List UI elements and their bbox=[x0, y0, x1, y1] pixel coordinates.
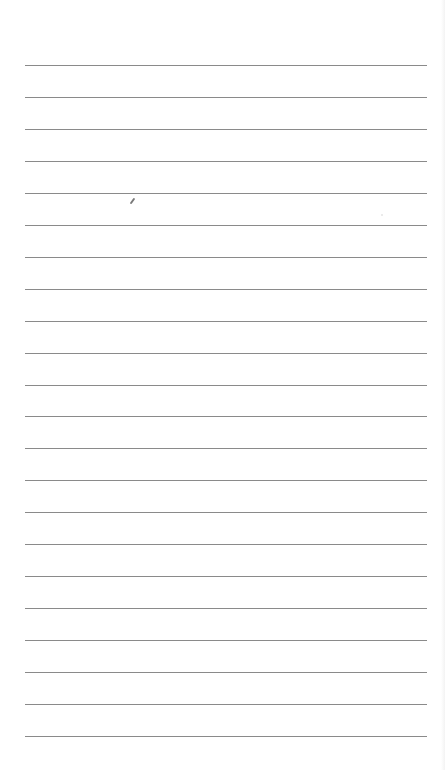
ruled-line bbox=[25, 448, 427, 449]
ruled-line bbox=[25, 416, 427, 417]
ruled-line bbox=[25, 608, 427, 609]
notepad-page[interactable] bbox=[0, 0, 445, 770]
ruled-line bbox=[25, 736, 427, 737]
ruled-line bbox=[25, 257, 427, 258]
ruled-line bbox=[25, 353, 427, 354]
ruled-line bbox=[25, 289, 427, 290]
ruled-line bbox=[25, 640, 427, 641]
page-edge bbox=[441, 0, 445, 770]
ruled-line bbox=[25, 97, 427, 98]
ruled-line bbox=[25, 129, 427, 130]
pencil-mark-icon bbox=[130, 198, 136, 205]
ruled-line bbox=[25, 512, 427, 513]
ruled-line bbox=[25, 65, 427, 66]
ruled-line bbox=[25, 672, 427, 673]
ruled-line bbox=[25, 161, 427, 162]
ruled-line bbox=[25, 704, 427, 705]
ruled-line bbox=[25, 321, 427, 322]
ruled-line bbox=[25, 193, 427, 194]
ruled-line bbox=[25, 225, 427, 226]
ruled-line bbox=[25, 544, 427, 545]
ruled-line bbox=[25, 385, 427, 386]
speck bbox=[381, 214, 383, 216]
ruled-line bbox=[25, 480, 427, 481]
ruled-line bbox=[25, 576, 427, 577]
